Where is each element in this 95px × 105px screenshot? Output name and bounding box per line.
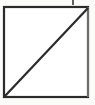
figure-canvas — [0, 0, 95, 105]
geometry-figure — [0, 0, 95, 105]
